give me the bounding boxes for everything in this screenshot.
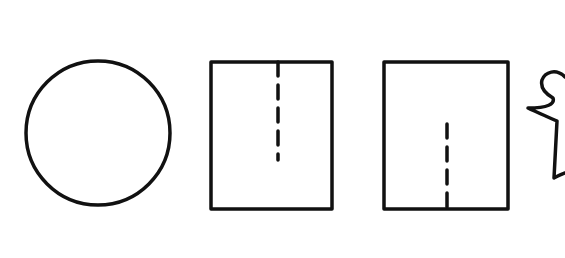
freeform-figure-partial xyxy=(528,72,565,178)
rectangle-with-top-cut xyxy=(211,62,332,209)
circle-shape xyxy=(26,61,170,205)
rectangle-with-bottom-cut xyxy=(384,62,508,209)
diagram-canvas xyxy=(0,0,565,258)
